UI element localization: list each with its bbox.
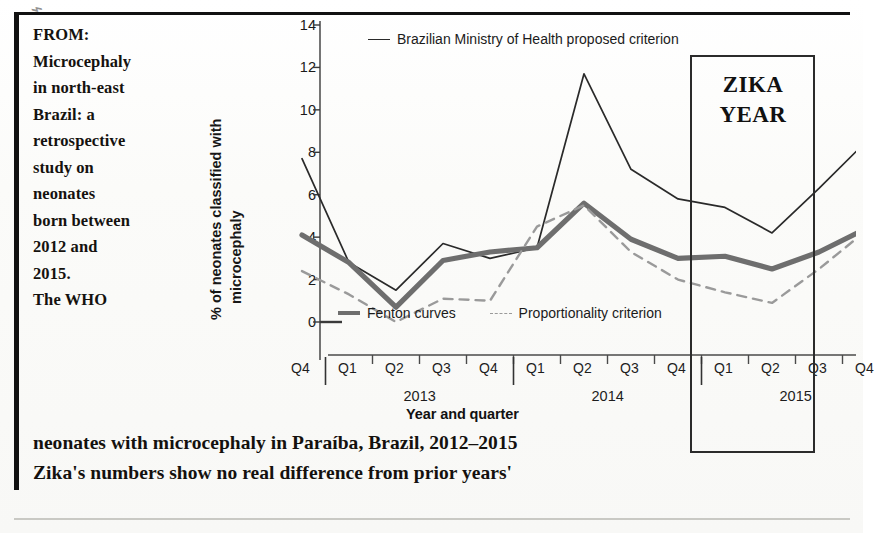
x-year-labels: 201320142015 — [246, 388, 856, 412]
clipping-bottom-rule — [14, 518, 850, 520]
intro-line: in north-east — [33, 75, 193, 102]
x-tick-labels: Q4Q1Q2Q3Q4Q1Q2Q3Q4Q1Q2Q3Q4 — [246, 360, 856, 386]
zika-year-label: ZIKA YEAR — [700, 70, 806, 130]
intro-line: Microcephaly — [33, 49, 193, 76]
intro-line: 2015. — [33, 261, 193, 288]
x-quarter-label: Q4 — [291, 360, 310, 376]
x-year-label: 2014 — [592, 388, 624, 404]
intro-line: retrospective — [33, 128, 193, 155]
intro-line: The WHO — [33, 287, 193, 314]
intro-line: Brazil: a — [33, 102, 193, 129]
legend-label-moh: Brazilian Ministry of Health proposed cr… — [397, 31, 679, 47]
x-quarter-label: Q3 — [808, 360, 827, 376]
y-axis-title: % of neonates classified with microcepha… — [194, 8, 234, 338]
x-quarter-label: Q1 — [526, 360, 545, 376]
y-axis-title-line2: microcephaly — [228, 211, 244, 305]
x-quarter-label: Q1 — [714, 360, 733, 376]
legend-label-proportionality: Proportionality criterion — [519, 305, 662, 321]
legend-entry-moh: Brazilian Ministry of Health proposed cr… — [368, 31, 679, 47]
caption-line: neonates with microcephaly in Paraíba, B… — [33, 428, 823, 458]
x-quarter-label: Q3 — [620, 360, 639, 376]
intro-line: neonates — [33, 181, 193, 208]
caption-text-block: neonates with microcephaly in Paraíba, B… — [33, 428, 823, 488]
legend-entry-fenton: Fenton curves — [338, 305, 456, 321]
intro-text-block: FROM:Microcephalyin north-eastBrazil: ar… — [33, 22, 193, 314]
legend-secondary: Fenton curves Proportionality criterion — [338, 304, 662, 321]
zika-year-label-line2: YEAR — [700, 100, 806, 130]
x-quarter-label: Q3 — [432, 360, 451, 376]
intro-line: study on — [33, 155, 193, 182]
x-quarter-label: Q2 — [573, 360, 592, 376]
x-quarter-label: Q2 — [385, 360, 404, 376]
intro-line: 2012 and — [33, 234, 193, 261]
x-year-label: 2015 — [780, 388, 812, 404]
x-year-label: 2013 — [404, 388, 436, 404]
caption-line: Zika's numbers show no real difference f… — [33, 458, 823, 488]
intro-line: born between — [33, 208, 193, 235]
legend-label-fenton: Fenton curves — [367, 305, 456, 321]
x-quarter-label: Q1 — [338, 360, 357, 376]
series-line-1 — [302, 203, 856, 307]
legend-swatch-line-icon — [368, 39, 390, 40]
legend-swatch-dashed-line-icon — [490, 313, 512, 314]
legend-primary: Brazilian Ministry of Health proposed cr… — [368, 30, 679, 47]
legend-swatch-thick-line-icon — [338, 311, 360, 315]
intro-line: FROM: — [33, 22, 193, 49]
zika-year-label-line1: ZIKA — [700, 70, 806, 100]
x-quarter-label: Q4 — [855, 360, 874, 376]
x-axis-title: Year and quarter — [406, 406, 519, 422]
x-quarter-label: Q4 — [667, 360, 686, 376]
x-quarter-label: Q4 — [479, 360, 498, 376]
x-quarter-label: Q2 — [761, 360, 780, 376]
y-axis-title-line1: % of neonates classified with — [208, 119, 224, 320]
legend-entry-proportionality: Proportionality criterion — [490, 305, 662, 321]
